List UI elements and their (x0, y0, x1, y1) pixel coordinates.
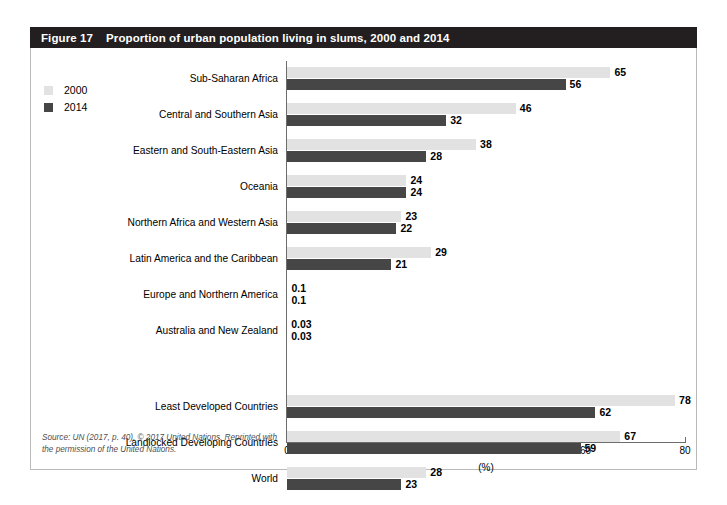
category-label: Sub-Saharan Africa (48, 73, 278, 84)
chart-plot-area: 020406080 Sub-Saharan Africa6556Central … (31, 48, 696, 468)
bar-value-label: 65 (614, 67, 626, 78)
bar-2014 (287, 259, 391, 270)
category-label: World (48, 473, 278, 484)
chart-category-row: Eastern and South-Eastern Asia3828 (31, 139, 696, 162)
source-note: Source: UN (2017, p. 40). © 2017 United … (42, 432, 278, 456)
bar-value-label: 0.1 (291, 283, 306, 294)
bar-value-label: 32 (450, 115, 462, 126)
bar-2000 (287, 467, 426, 478)
bar-value-label: 78 (679, 395, 691, 406)
bar-value-label: 56 (570, 79, 582, 90)
category-label: Oceania (48, 181, 278, 192)
chart-category-row: World2823 (31, 467, 696, 490)
bar-value-label: 67 (624, 431, 636, 442)
bar-2000 (287, 103, 516, 114)
bar-value-label: 23 (405, 479, 417, 490)
chart-category-row: Central and Southern Asia4632 (31, 103, 696, 126)
chart-category-row: Australia and New Zealand0.030.03 (31, 319, 696, 342)
bar-value-label: 29 (435, 247, 447, 258)
category-label: Northern Africa and Western Asia (48, 217, 278, 228)
category-label: Central and Southern Asia (48, 109, 278, 120)
bar-2000 (287, 211, 401, 222)
bar-value-label: 46 (520, 103, 532, 114)
x-axis-label: (%) (478, 462, 494, 473)
bar-2000 (287, 395, 675, 406)
chart-category-row: Latin America and the Caribbean2921 (31, 247, 696, 270)
bar-value-label: 62 (599, 407, 611, 418)
bar-value-label: 38 (480, 139, 492, 150)
bar-value-label: 24 (410, 187, 422, 198)
chart-category-row: Least Developed Countries7862 (31, 395, 696, 418)
bar-2014 (287, 187, 406, 198)
page-title: Proportion of urban population living in… (106, 32, 449, 44)
category-label: Europe and Northern America (48, 289, 278, 300)
bar-value-label: 22 (400, 223, 412, 234)
bar-2000 (287, 175, 406, 186)
category-label: Latin America and the Caribbean (48, 253, 278, 264)
bar-2014 (287, 115, 446, 126)
chart-category-row: Europe and Northern America0.10.1 (31, 283, 696, 306)
bar-value-label: 0.1 (291, 295, 306, 306)
figure-title-band: Figure 17 Proportion of urban population… (30, 27, 697, 48)
chart-category-row: Sub-Saharan Africa6556 (31, 67, 696, 90)
bar-value-label: 28 (430, 151, 442, 162)
bar-2014 (287, 443, 581, 454)
bar-value-label: 24 (410, 175, 422, 186)
bar-value-label: 0.03 (291, 331, 311, 342)
bar-value-label: 0.03 (291, 319, 311, 330)
chart-category-row: Northern Africa and Western Asia2322 (31, 211, 696, 234)
bar-value-label: 23 (405, 211, 417, 222)
category-label: Australia and New Zealand (48, 325, 278, 336)
bar-2000 (287, 431, 620, 442)
bar-2014 (287, 223, 396, 234)
bar-2014 (287, 479, 401, 490)
bar-2014 (287, 407, 595, 418)
bar-2000 (287, 139, 476, 150)
figure-number: Figure 17 (41, 32, 93, 44)
bar-value-label: 21 (395, 259, 407, 270)
category-label: Eastern and South-Eastern Asia (48, 145, 278, 156)
category-label: Least Developed Countries (48, 401, 278, 412)
bar-2000 (287, 247, 431, 258)
bar-2014 (287, 79, 566, 90)
chart-category-row: Oceania2424 (31, 175, 696, 198)
bar-value-label: 28 (430, 467, 442, 478)
bar-2014 (287, 151, 426, 162)
bar-value-label: 59 (585, 443, 597, 454)
bar-2000 (287, 67, 610, 78)
